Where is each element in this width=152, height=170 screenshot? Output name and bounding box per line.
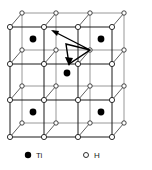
h-atom [41,24,46,29]
legend-ti-marker-icon [25,152,31,158]
h-atom [54,11,58,15]
h-atom [75,134,80,139]
h-atom [20,121,24,125]
h-atom [54,84,58,88]
h-atom [41,61,46,66]
ti-atom [98,36,105,43]
h-atom [109,24,114,29]
lattice-svg: Ti H [0,0,152,170]
h-atom [122,48,126,52]
ti-atom [30,109,37,116]
legend-h-label: H [94,151,100,160]
h-atom [20,11,24,15]
legend-h-marker-icon [84,153,89,158]
h-atom [20,48,24,52]
h-atom [88,11,92,15]
crystal-lattice-figure: Ti H [0,0,152,170]
h-atom [109,134,114,139]
h-atom [88,121,92,125]
h-atom [41,134,46,139]
h-atom [109,97,114,102]
h-atom [20,84,24,88]
h-atom [7,24,12,29]
h-atom [88,84,92,88]
h-atom [54,48,58,52]
h-atom [109,61,114,66]
h-atom [7,134,12,139]
h-atom [75,97,80,102]
h-atom [7,61,12,66]
h-atom [122,11,126,15]
h-atom [75,61,80,66]
h-atom [54,121,58,125]
ti-atom [30,36,37,43]
h-atom [122,121,126,125]
h-atom [122,84,126,88]
ti-atom [98,109,105,116]
legend-ti-label: Ti [36,151,43,160]
h-atom [7,97,12,102]
ti-atom [64,70,71,77]
h-atom [75,24,80,29]
h-atom [41,97,46,102]
